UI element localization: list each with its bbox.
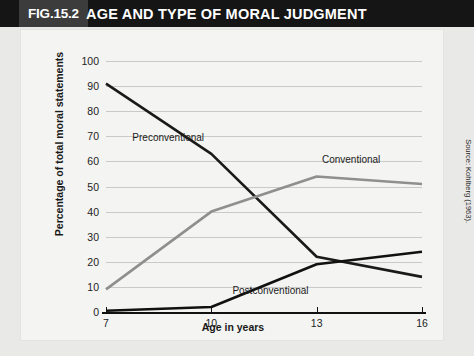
x-axis-tick-label: 10 (205, 317, 217, 329)
y-axis-tick-label: 90 (87, 80, 99, 92)
x-axis-tick-label: 13 (311, 317, 323, 329)
x-axis-tick-label: 16 (416, 317, 428, 329)
y-axis-tick-label: 80 (87, 105, 99, 117)
y-axis-tick-label: 100 (81, 55, 99, 67)
series-label-preconventional: Preconventional (132, 132, 204, 143)
y-axis-tick-label: 70 (87, 130, 99, 142)
series-line-conventional (106, 176, 422, 289)
figure-container: FIG.15.2 AGE AND TYPE OF MORAL JUDGMENT … (0, 0, 474, 356)
x-axis-tick-mark (422, 307, 423, 313)
y-axis-tick-label: 60 (87, 155, 99, 167)
y-axis-tick-label: 10 (87, 281, 99, 293)
figure-number-label: FIG.15.2 (28, 6, 79, 21)
source-note: Source: Kohlberg (1963). (464, 139, 473, 223)
y-axis-tick-label: 50 (87, 181, 99, 193)
y-axis-tick-label: 40 (87, 206, 99, 218)
figure-header-bar: FIG.15.2 AGE AND TYPE OF MORAL JUDGMENT (0, 0, 474, 27)
y-axis-tick-label: 0 (93, 306, 99, 318)
chart-panel-inner: Percentage of total moral statements Age… (20, 29, 444, 341)
x-axis-tick-label: 7 (103, 317, 109, 329)
plot-area: 0102030405060708090100 7101316 Preconven… (106, 61, 422, 312)
series-line-postconventional (106, 252, 422, 311)
series-label-conventional: Conventional (322, 154, 380, 165)
figure-number-block: FIG.15.2 (19, 0, 88, 27)
series-label-postconventional: Postconventional (232, 285, 308, 296)
data-lines (106, 61, 422, 312)
y-axis-title: Percentage of total moral statements (53, 44, 65, 244)
y-axis-tick-label: 20 (87, 256, 99, 268)
x-axis-title: Age in years (21, 321, 445, 333)
y-axis-tick-label: 30 (87, 231, 99, 243)
x-axis-line (102, 312, 426, 314)
chart-panel-outer: Percentage of total moral statements Age… (0, 27, 474, 356)
figure-title: AGE AND TYPE OF MORAL JUDGMENT (86, 0, 367, 27)
